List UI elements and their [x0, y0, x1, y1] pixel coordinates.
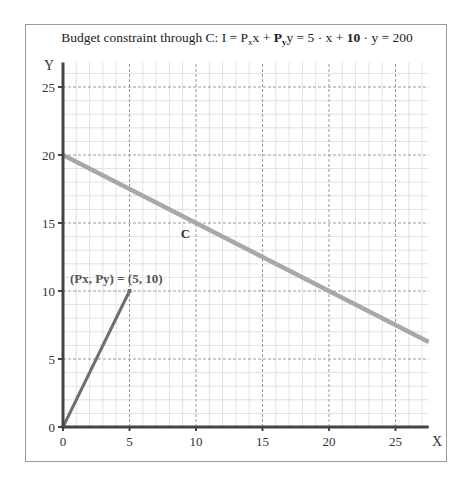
x-tick-label: 15 [256, 434, 269, 449]
budget-line-label: C [181, 226, 190, 241]
x-axis-label: X [432, 434, 442, 449]
y-axis-label: Y [44, 58, 54, 73]
x-tick-label: 0 [60, 434, 67, 449]
y-tick-label: 5 [49, 352, 56, 367]
y-tick-label: 15 [42, 216, 55, 231]
chart-canvas: 05101520250510152025 Budget constraint t… [0, 0, 472, 485]
x-tick-label: 5 [126, 434, 133, 449]
price-vector-label: (Px, Py) = (5, 10) [70, 271, 163, 286]
y-tick-label: 25 [42, 80, 55, 95]
x-tick-label: 10 [190, 434, 203, 449]
minor-grid [63, 63, 429, 427]
chart-title: Budget constraint through C: I = Pxx + P… [61, 30, 413, 47]
y-tick-label: 10 [42, 284, 55, 299]
price-vector-endpoint [128, 289, 132, 293]
y-tick-label: 20 [42, 148, 55, 163]
x-tick-label: 20 [323, 434, 336, 449]
y-tick-label: 0 [49, 420, 56, 435]
x-tick-label: 25 [389, 434, 402, 449]
